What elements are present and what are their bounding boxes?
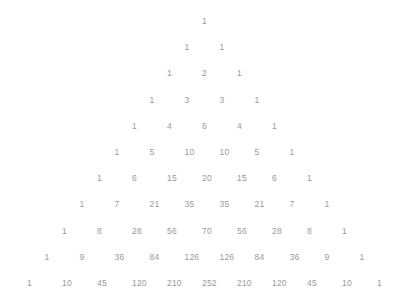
pascals-triangle-figure: 1111211331146411510105116152015611721353…	[0, 0, 409, 302]
